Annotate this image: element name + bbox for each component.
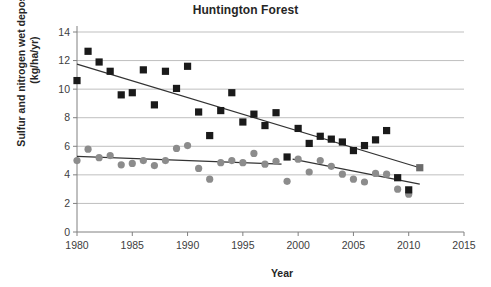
x-axis-group — [77, 232, 464, 236]
data-point-nitrogen — [73, 157, 80, 164]
data-point-sulfur — [361, 142, 368, 149]
data-point-sulfur — [328, 136, 335, 143]
data-point-sulfur — [184, 63, 191, 70]
data-point-nitrogen — [162, 157, 169, 164]
data-point-sulfur — [261, 122, 268, 129]
data-point-nitrogen — [151, 162, 158, 169]
data-point-sulfur — [162, 68, 169, 75]
data-point-sulfur — [250, 111, 257, 118]
y-tick-label: 10 — [58, 83, 70, 95]
data-point-sulfur — [372, 136, 379, 143]
data-point-sulfur — [272, 109, 279, 116]
data-point-sulfur — [295, 125, 302, 132]
data-point-nitrogen — [283, 178, 290, 185]
data-point-nitrogen — [228, 157, 235, 164]
data-point-sulfur — [140, 66, 147, 73]
x-tick-labels-group: 19801985199019952000200520102015 — [65, 239, 476, 251]
data-point-nitrogen — [361, 178, 368, 185]
data-point-nitrogen — [306, 168, 313, 175]
series-sulfur-points — [73, 48, 423, 194]
data-point-sulfur — [416, 164, 423, 171]
y-tick-label: 2 — [64, 197, 70, 209]
data-point-nitrogen — [96, 154, 103, 161]
data-point-sulfur — [173, 85, 180, 92]
data-point-nitrogen — [295, 156, 302, 163]
data-point-nitrogen — [261, 161, 268, 168]
data-point-sulfur — [317, 133, 324, 140]
trendlines-group — [77, 64, 420, 184]
data-point-nitrogen — [107, 152, 114, 159]
chart-container: Huntington Forest Sulfur and nitrogen we… — [0, 0, 491, 287]
y-tick-label: 8 — [64, 111, 70, 123]
x-tick-label: 1985 — [121, 239, 145, 251]
data-point-nitrogen — [350, 176, 357, 183]
data-point-nitrogen — [195, 165, 202, 172]
data-point-nitrogen — [250, 150, 257, 157]
y-tick-label: 6 — [64, 140, 70, 152]
gridlines-group — [77, 32, 464, 232]
data-point-sulfur — [217, 107, 224, 114]
data-point-nitrogen — [140, 157, 147, 164]
data-point-nitrogen — [317, 157, 324, 164]
data-point-nitrogen — [217, 159, 224, 166]
x-tick-label: 2000 — [286, 239, 310, 251]
data-point-nitrogen — [129, 160, 136, 167]
data-point-nitrogen — [328, 163, 335, 170]
data-point-nitrogen — [118, 161, 125, 168]
data-point-sulfur — [239, 118, 246, 125]
y-tick-label: 4 — [64, 168, 70, 180]
data-point-nitrogen — [339, 171, 346, 178]
y-tick-labels-group: 02468101214 — [58, 26, 70, 238]
data-point-sulfur — [405, 186, 412, 193]
x-tick-label: 1980 — [65, 239, 89, 251]
data-point-nitrogen — [84, 146, 91, 153]
data-point-nitrogen — [173, 145, 180, 152]
data-point-sulfur — [96, 58, 103, 65]
data-point-nitrogen — [184, 142, 191, 149]
data-point-sulfur — [228, 89, 235, 96]
data-point-sulfur — [283, 153, 290, 160]
data-point-sulfur — [306, 140, 313, 147]
data-point-sulfur — [195, 108, 202, 115]
data-point-nitrogen — [383, 171, 390, 178]
y-tick-label: 0 — [64, 226, 70, 238]
data-point-sulfur — [394, 174, 401, 181]
x-tick-label: 2015 — [452, 239, 476, 251]
data-point-nitrogen — [372, 170, 379, 177]
x-tick-label: 1990 — [176, 239, 200, 251]
data-point-nitrogen — [394, 186, 401, 193]
data-point-sulfur — [350, 147, 357, 154]
x-tick-label: 2010 — [397, 239, 421, 251]
data-point-sulfur — [107, 68, 114, 75]
data-point-sulfur — [339, 138, 346, 145]
trendline — [77, 64, 420, 168]
data-point-sulfur — [129, 89, 136, 96]
plot-area: 02468101214 1980198519901995200020052010… — [0, 0, 491, 287]
data-point-nitrogen — [272, 158, 279, 165]
data-point-sulfur — [84, 48, 91, 55]
y-tick-label: 12 — [58, 54, 70, 66]
data-point-sulfur — [383, 127, 390, 134]
x-tick-label: 2005 — [342, 239, 366, 251]
y-tick-label: 14 — [58, 26, 70, 38]
data-point-nitrogen — [206, 176, 213, 183]
data-point-sulfur — [151, 101, 158, 108]
data-point-sulfur — [118, 91, 125, 98]
data-point-sulfur — [73, 77, 80, 84]
y-axis-group — [73, 26, 77, 232]
data-point-nitrogen — [239, 159, 246, 166]
x-tick-label: 1995 — [231, 239, 255, 251]
data-point-sulfur — [206, 132, 213, 139]
